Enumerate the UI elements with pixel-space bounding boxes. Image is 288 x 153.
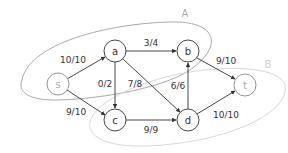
node-label-d: d (185, 115, 191, 126)
edge-label-d-b: 6/6 (171, 81, 186, 91)
node-c: c (104, 109, 126, 131)
edge-label-c-d: 9/9 (144, 125, 159, 135)
edge-label-a-b: 3/4 (144, 38, 159, 48)
edge-label-a-d: 7/8 (128, 79, 143, 89)
cut-b-curve (90, 68, 286, 146)
node-label-c: c (112, 115, 118, 126)
node-d: d (177, 109, 199, 131)
edge-label-s-a: 10/10 (60, 55, 86, 65)
flow-network-diagram: A B 10/10 9/10 3/4 0/2 7/8 6/6 9/9 9/10 … (0, 0, 288, 153)
cut-b-label: B (265, 59, 272, 70)
edge-label-d-t: 10/10 (213, 110, 239, 120)
node-t: t (234, 74, 256, 96)
node-s: s (47, 73, 69, 95)
edge-label-a-c: 0/2 (98, 79, 112, 89)
node-b: b (177, 40, 199, 62)
node-label-t: t (243, 80, 247, 91)
node-label-s: s (55, 79, 60, 90)
edge-label-b-t: 9/10 (216, 56, 236, 66)
node-label-a: a (112, 46, 118, 57)
node-a: a (104, 40, 126, 62)
cut-a-label: A (182, 8, 189, 19)
node-label-b: b (185, 46, 191, 57)
edge-label-s-c: 9/10 (66, 107, 86, 117)
edges (67, 51, 235, 120)
